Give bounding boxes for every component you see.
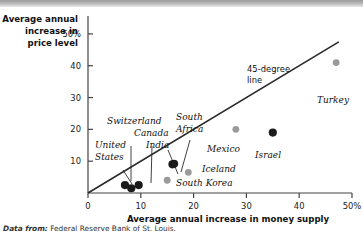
- x-tick-label: 20: [188, 201, 199, 211]
- y-axis-title: increase in: [25, 26, 78, 36]
- point-label-india: India: [145, 140, 169, 150]
- data-point-switzerland[interactable]: [127, 184, 135, 192]
- data-point-south-africa[interactable]: [170, 160, 178, 168]
- y-tick-label: 20: [70, 124, 81, 134]
- reference-line-label: 45-degree: [247, 64, 290, 74]
- y-axis-title: price level: [28, 38, 78, 48]
- point-label-south-africa: Africa: [175, 124, 203, 134]
- figure-caption: Data from: Federal Reserve Bank of St. L…: [3, 224, 176, 233]
- data-point-iceland[interactable]: [185, 169, 192, 176]
- x-tick-label: 10: [135, 201, 146, 211]
- x-axis-title: Average annual increase in money supply: [127, 214, 330, 224]
- y-tick-label: 10: [70, 156, 81, 166]
- data-point-south-korea[interactable]: [164, 177, 171, 184]
- point-label-united-states: United: [95, 140, 126, 150]
- point-label-canada: Canada: [134, 128, 169, 138]
- leader-line-south-africa: [181, 140, 190, 172]
- y-tick-label: 40: [70, 61, 81, 71]
- data-point-mexico[interactable]: [232, 126, 239, 133]
- reference-line-label: line: [247, 75, 262, 85]
- point-label-south-korea: South Korea: [176, 178, 233, 188]
- point-label-iceland: Iceland: [201, 164, 236, 174]
- point-label-united-states: States: [95, 152, 124, 162]
- scatter-plot-figure: 1020304050%01020304050%Average annualinc…: [0, 0, 363, 237]
- point-label-switzerland: Switzerland: [107, 116, 162, 126]
- plot-canvas: 1020304050%01020304050%Average annualinc…: [0, 0, 363, 237]
- x-tick-label: 30: [241, 201, 252, 211]
- y-axis-title: Average annual: [2, 14, 78, 24]
- data-point-turkey[interactable]: [333, 59, 340, 66]
- point-label-turkey: Turkey: [317, 95, 350, 105]
- x-tick-label: 0: [85, 201, 90, 211]
- point-label-mexico: Mexico: [206, 144, 241, 154]
- data-point-canada[interactable]: [135, 181, 143, 189]
- x-tick-label: 40: [294, 201, 305, 211]
- caption-text: Federal Reserve Bank of St. Louis.: [50, 224, 176, 233]
- data-point-israel[interactable]: [269, 128, 277, 136]
- caption-lead: Data from:: [3, 224, 48, 233]
- y-tick-label: 30: [70, 93, 81, 103]
- point-label-israel: Israel: [254, 150, 281, 160]
- x-tick-label: 50%: [343, 201, 362, 211]
- point-label-south-africa: South: [176, 112, 203, 122]
- leader-line-canada: [151, 146, 152, 183]
